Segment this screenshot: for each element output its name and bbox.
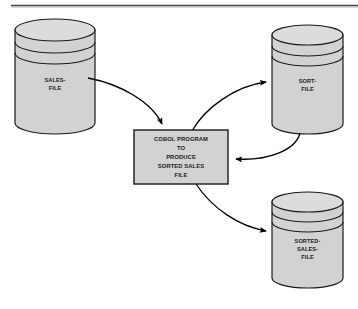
cobol-program-label-line-3: PRODUCE bbox=[166, 154, 196, 160]
cobol-program-label-line-1: COBOL PROGRAM bbox=[154, 136, 208, 142]
sorted-sales-file-label-line-3: FILE bbox=[301, 254, 314, 260]
sales-file-label-line-1: SALES- bbox=[44, 77, 65, 83]
sales-file-label-line-2: FILE bbox=[49, 85, 62, 91]
node-sorted-sales-file: SORTED- SALES- FILE bbox=[272, 192, 343, 288]
sort-file-label-line-1: SORT- bbox=[299, 78, 317, 84]
node-cobol-program: COBOL PROGRAM TO PRODUCE SORTED SALES FI… bbox=[134, 130, 228, 184]
cobol-program-label-line-5: FILE bbox=[175, 172, 188, 178]
sort-file-label-line-2: FILE bbox=[301, 86, 314, 92]
cobol-program-label-line-2: TO bbox=[177, 145, 186, 151]
sorted-sales-file-label-line-1: SORTED- bbox=[295, 238, 321, 244]
edge-program-to-sort bbox=[192, 82, 266, 131]
edge-sales-to-program bbox=[88, 78, 162, 124]
edge-sort-to-program bbox=[236, 133, 300, 159]
sorted-sales-file-label-line-2: SALES- bbox=[297, 246, 318, 252]
header-divider bbox=[11, 6, 358, 7]
node-sales-file: SALES- FILE bbox=[15, 19, 95, 134]
dataflow-diagram: SALES- FILE SORT- FILE SORTED- SALES- FI… bbox=[0, 0, 358, 309]
node-sort-file: SORT- FILE bbox=[272, 25, 343, 134]
cobol-program-label-line-4: SORTED SALES bbox=[158, 163, 204, 169]
diagram-canvas: SALES- FILE SORT- FILE SORTED- SALES- FI… bbox=[0, 0, 358, 309]
edge-program-to-sorted-sales bbox=[196, 184, 266, 231]
